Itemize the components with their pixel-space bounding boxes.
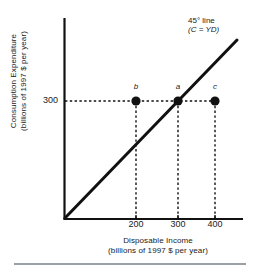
consumption-expenditure-chart: 45° line (C = YD) b a c 300 200 300 400 …	[0, 0, 258, 270]
point-label-b: b	[129, 82, 143, 91]
point-label-c: c	[208, 82, 222, 91]
x-tick-label-200: 200	[121, 219, 151, 229]
footer-divider	[14, 263, 246, 265]
point-label-a: a	[171, 82, 185, 91]
y-axis-title-line2: (billions of 1997 $ per year)	[19, 1, 29, 161]
data-point-c	[210, 96, 219, 105]
x-axis-title: Disposable Income (billions of 1997 $ pe…	[60, 236, 256, 256]
x-axis-title-line2: (billions of 1997 $ per year)	[60, 246, 256, 256]
data-point-b	[131, 96, 140, 105]
forty-five-degree-line	[65, 40, 237, 218]
data-point-a	[173, 96, 182, 105]
y-axis-title: Consumption Expenditure (billions of 199…	[9, 1, 43, 161]
x-tick-label-400: 400	[200, 219, 230, 229]
y-axis-title-line1: Consumption Expenditure	[9, 1, 19, 161]
x-tick-label-300: 300	[163, 219, 193, 229]
forty-five-degree-line-label: 45° line (C = YD)	[188, 16, 219, 34]
x-axis-title-line1: Disposable Income	[60, 236, 256, 246]
line-label-line2: (C = YD)	[188, 25, 219, 34]
line-label-line1: 45° line	[188, 16, 219, 25]
